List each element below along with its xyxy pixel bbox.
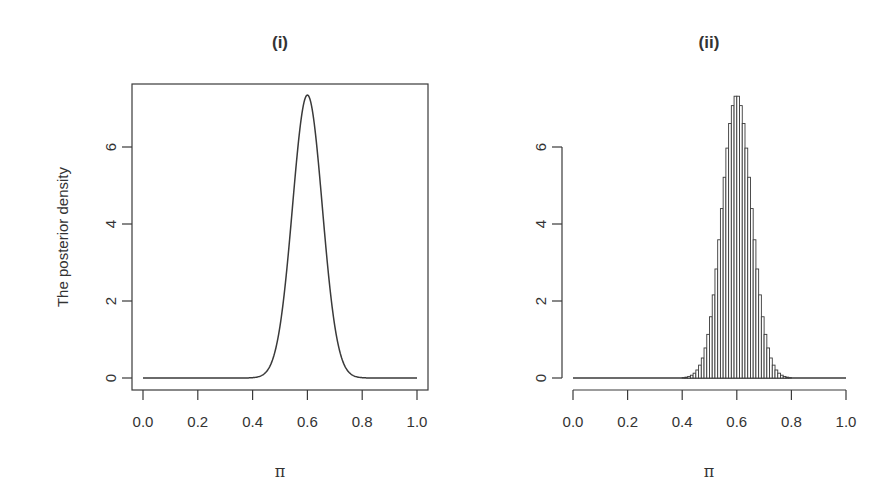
density-curve: [143, 95, 417, 378]
y-tick-label: 2: [532, 297, 549, 305]
y-tick-label: 6: [532, 143, 549, 151]
histogram-bars: [573, 96, 846, 378]
x-tick-label: 0.2: [617, 413, 638, 430]
x-tick-label: 1.0: [407, 413, 428, 430]
x-tick-label: 0.8: [781, 413, 802, 430]
panel-ii-plot: 02460.00.20.40.60.81.0: [532, 96, 857, 430]
x-tick-label: 0.8: [352, 413, 373, 430]
y-tick-label: 0: [102, 374, 119, 382]
x-tick-label: 0.6: [297, 413, 318, 430]
x-tick-label: 0.6: [726, 413, 747, 430]
y-tick-label: 4: [102, 220, 119, 228]
x-tick-label: 0.0: [563, 413, 584, 430]
figure: (i) (ii) The posterior density π π 02460…: [0, 0, 894, 500]
x-tick-label: 1.0: [836, 413, 857, 430]
plot-area: 02460.00.20.40.60.81.0 02460.00.20.40.60…: [0, 0, 894, 500]
plot-box: [132, 84, 428, 390]
x-tick-label: 0.4: [672, 413, 693, 430]
x-tick-label: 0.2: [187, 413, 208, 430]
x-tick-label: 0.0: [133, 413, 154, 430]
y-tick-label: 0: [532, 374, 549, 382]
y-tick-label: 4: [532, 220, 549, 228]
y-tick-label: 2: [102, 297, 119, 305]
y-tick-label: 6: [102, 143, 119, 151]
x-tick-label: 0.4: [242, 413, 263, 430]
panel-i-plot: 02460.00.20.40.60.81.0: [102, 84, 429, 430]
